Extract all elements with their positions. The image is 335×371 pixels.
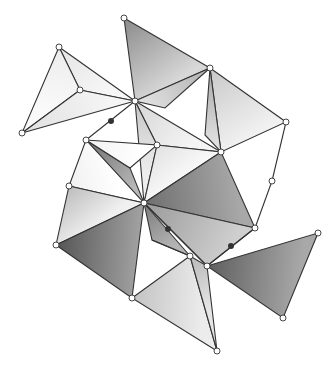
vertex-r bbox=[204, 263, 210, 269]
vertex-d bbox=[77, 87, 83, 93]
vertex-k bbox=[66, 183, 72, 189]
hinge-dot-0 bbox=[108, 118, 114, 124]
vertex-c bbox=[56, 44, 62, 50]
vertex-e bbox=[19, 130, 25, 136]
edge-op bbox=[255, 181, 272, 228]
vertex-g bbox=[283, 119, 289, 125]
vertex-q bbox=[187, 253, 193, 259]
vertex-i bbox=[154, 142, 160, 148]
vertex-p bbox=[269, 178, 275, 184]
vertex-s bbox=[315, 230, 321, 236]
vertex-n bbox=[129, 295, 135, 301]
vertex-a bbox=[121, 15, 127, 21]
vertex-m bbox=[53, 242, 59, 248]
vertex-h bbox=[218, 149, 224, 155]
vertex-t bbox=[280, 315, 286, 321]
triangle-fgh bbox=[210, 68, 286, 152]
vertex-f bbox=[207, 65, 213, 71]
triangle-tiling-figure bbox=[0, 0, 335, 371]
vertex-l bbox=[141, 200, 147, 206]
edge-pg bbox=[272, 122, 286, 181]
vertex-u bbox=[214, 348, 220, 354]
vertex-j bbox=[83, 137, 89, 143]
hinge-dot-2 bbox=[228, 243, 234, 249]
vertex-b bbox=[132, 98, 138, 104]
vertex-o bbox=[252, 225, 258, 231]
hinge-dot-1 bbox=[165, 226, 171, 232]
